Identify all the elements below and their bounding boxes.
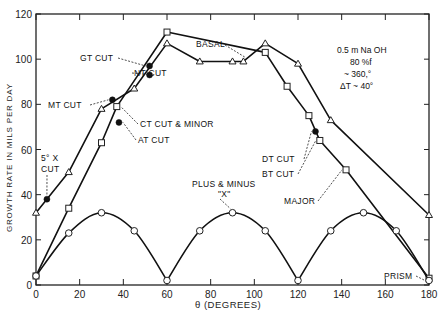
x-tick-label: 140 [333, 289, 350, 300]
major-label: MAJOR [284, 196, 315, 206]
circle-marker [164, 277, 171, 284]
x-tick-label: 20 [74, 289, 86, 300]
annotation-arrow [298, 140, 316, 174]
x-tick-label: 40 [118, 289, 130, 300]
annotation-arrow [118, 58, 146, 66]
x-axis-label: θ (DEGREES) [195, 299, 261, 310]
circle-marker [65, 230, 72, 237]
condition-line-2: 80 %f [350, 57, 372, 67]
plus-minus-label: PLUS & MINUS [192, 179, 256, 189]
y-tick-label: 0 [26, 280, 32, 291]
triangle-marker [262, 40, 269, 46]
circle-marker [262, 228, 269, 235]
circle-marker [98, 209, 105, 216]
circle-marker [295, 277, 302, 284]
gt-cut-label: GT CUT [80, 53, 113, 63]
circle-marker [33, 273, 40, 280]
annotation-arrow [123, 122, 136, 140]
triangle-marker [65, 169, 72, 175]
circle-marker [360, 209, 367, 216]
condition-line-4: ΔT ~ 40° [340, 81, 373, 91]
x5-cut-label-1: 5° X [41, 153, 58, 163]
condition-line-1: 0.5 m Na OH [337, 45, 387, 55]
y-tick-label: 40 [21, 190, 33, 201]
annotation-arrow [416, 276, 425, 280]
square-marker [317, 137, 323, 143]
nt-cut-label: NT CUT [134, 68, 167, 78]
ct-cut-label: CT CUT & MINOR [140, 119, 214, 129]
y-axis-label: GROWTH RATE IN MILS PER DAY [5, 83, 14, 232]
at-cut-label: AT CUT [138, 135, 170, 145]
cut-point-dot [116, 119, 122, 125]
plus-minus-x-label: "X" [218, 189, 231, 199]
y-tick-label: 100 [15, 54, 32, 65]
series-group [33, 29, 433, 284]
square-marker [99, 140, 105, 146]
square-marker [284, 83, 290, 89]
circle-marker [196, 228, 203, 235]
cut-point-dot [109, 97, 115, 103]
y-tick-label: 60 [21, 145, 33, 156]
circle-series-line [36, 213, 429, 281]
annotation-arrow [318, 170, 342, 201]
circle-marker [393, 228, 400, 235]
circle-marker [131, 228, 138, 235]
y-tick-label: 20 [21, 235, 33, 246]
annotation-arrow [90, 100, 108, 105]
circle-marker [229, 209, 236, 216]
square-marker [114, 104, 120, 110]
y-tick-label: 80 [21, 99, 33, 110]
dt-cut-label: DT CUT [262, 154, 295, 164]
square-marker [66, 205, 72, 211]
x-tick-label: 60 [161, 289, 173, 300]
x5-cut-label-2: CUT [41, 164, 59, 174]
square-marker [262, 49, 268, 55]
bt-cut-label: BT CUT [262, 169, 294, 179]
square-marker [306, 113, 312, 119]
annotation-arrow [220, 199, 231, 209]
cut-point-dot [44, 196, 50, 202]
annotation-arrow [121, 107, 138, 124]
circle-marker [327, 228, 334, 235]
y-tick-label: 120 [15, 9, 32, 20]
triangle-marker [164, 40, 171, 46]
basal-label: BASAL [196, 39, 225, 49]
mt-cut-label: MT CUT [48, 100, 82, 110]
condition-line-3: ~ 360,° [344, 69, 371, 79]
square-marker [343, 167, 349, 173]
triangle-marker [98, 105, 105, 111]
x-tick-label: 160 [377, 289, 394, 300]
triangle-marker [295, 60, 302, 66]
growth-rate-chart: 020406080100120140160180020406080100120 … [0, 0, 447, 317]
cut-point-dot [312, 128, 318, 134]
x-tick-label: 0 [33, 289, 39, 300]
square-marker [164, 29, 170, 35]
x-tick-label: 120 [290, 289, 307, 300]
circle-marker [426, 277, 433, 284]
x-tick-label: 180 [421, 289, 438, 300]
triangle-marker [327, 117, 334, 123]
prism-label: PRISM [384, 271, 412, 281]
